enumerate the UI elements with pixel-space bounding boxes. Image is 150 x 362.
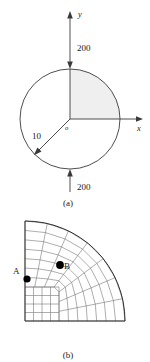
x-axis-label: x	[136, 123, 141, 133]
point-b-marker	[56, 261, 64, 269]
radius-length-label: 10	[32, 131, 42, 141]
mesh-boundary	[25, 221, 125, 321]
panel-a-diagram: y x 200 200 10 o (a)	[0, 0, 150, 210]
point-b-label: B	[64, 261, 70, 271]
y-axis-arrow-head	[67, 11, 73, 19]
figure-root: y x 200 200 10 o (a) A B (b)	[0, 0, 150, 362]
panel-a-caption: (a)	[63, 198, 73, 208]
panel-b-caption: (b)	[63, 350, 74, 360]
top-load-arrow-head	[67, 62, 73, 70]
x-axis-arrow-head	[136, 116, 143, 122]
y-axis-label: y	[77, 9, 82, 19]
origin-label: o	[65, 124, 69, 131]
top-load-label: 200	[77, 43, 91, 53]
bottom-load-arrow-head	[67, 169, 73, 177]
bottom-load-label: 200	[77, 182, 91, 192]
shaded-quadrant	[70, 69, 120, 119]
panel-b-diagram: A B (b)	[0, 210, 150, 362]
point-a-label: A	[13, 266, 20, 276]
point-a-marker	[23, 275, 30, 282]
mesh-group	[25, 221, 125, 321]
